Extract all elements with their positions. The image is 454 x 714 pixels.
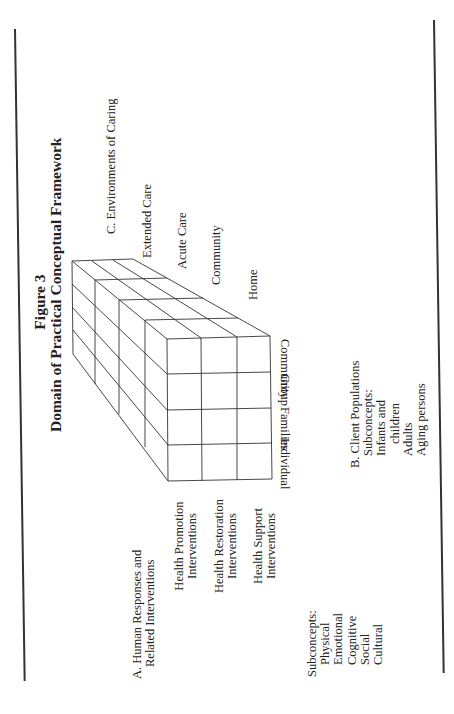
human-responses-heading-line2: Related Interventions [144,550,157,679]
environment-acute-care: Acute Care [176,212,189,269]
figure-title: Figure 3 Domain of Practical Conceptual … [32,172,64,432]
document-page: Figure 3 Domain of Practical Conceptual … [0,0,454,714]
environment-community: Community [210,225,223,285]
cube-left-face [72,261,168,481]
intervention-line2: Interventions [265,491,278,601]
figure-number: Figure 3 [32,172,48,432]
cube-front-face [167,336,272,481]
environment-extended-care: Extended Care [141,184,154,258]
population-community: Community [278,339,291,399]
intervention-health-support: Health Support Interventions [252,491,278,601]
human-responses-heading: A. Human Responses and Related Intervent… [131,550,157,679]
client-subconcept-item: children [389,361,402,468]
intervention-health-promotion: Health Promotion Interventions [173,491,199,601]
population-families: Families [278,407,291,450]
human-subconcept-item: Emotional [332,610,345,677]
environment-home: Home [247,269,260,300]
cube-top-face [72,259,270,338]
client-subconcept-item: Aging persons [415,361,428,468]
framework-cube-diagram [0,0,454,714]
environments-heading: C. Environments of Caring [105,99,118,234]
client-subconcept-item: Infants and [375,361,388,468]
human-subconcepts-block: Subconcepts: Physical Emotional Cognitiv… [306,610,385,677]
client-populations-block: B. Client Populations Subconcepts: Infan… [349,361,428,468]
intervention-health-restoration: Health Restoration Interventions [213,491,239,601]
intervention-line2: Interventions [226,491,239,601]
intervention-line2: Interventions [186,491,199,601]
human-subconcept-item: Cognitive [346,610,359,677]
figure-title-text: Domain of Practical Conceptual Framework [48,172,64,432]
human-subconcept-item: Cultural [372,610,385,677]
